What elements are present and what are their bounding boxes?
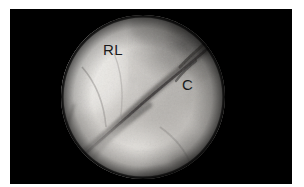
arthroscopy-frame: RL C (10, 9, 292, 184)
annotation-label-c: C (182, 77, 193, 92)
figure-root: RL C (0, 0, 304, 187)
arthroscopy-image (10, 9, 292, 184)
annotation-label-rl: RL (103, 42, 123, 57)
